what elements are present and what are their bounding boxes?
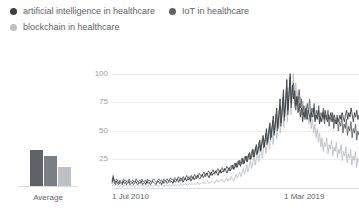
chart-legend: artificial intelligence in healthcare Io… [10,3,310,35]
legend-dot-icon-iot [169,8,176,15]
series-layer [112,68,359,188]
legend-dot-icon-ai [10,8,17,15]
average-bar [58,167,71,186]
legend-label-ai: artificial intelligence in healthcare [23,6,155,16]
legend-item-iot[interactable]: IoT in healthcare [169,6,249,16]
x-axis-labels: 1 Jul 2010 1 Mar 2019 [86,192,358,206]
y-tick-label: 50 [99,126,108,135]
timeseries-chart: 255075100 1 Jul 2010 1 Mar 2019 [86,60,358,210]
legend-row-2: blockchain in healthcare [10,19,310,35]
series-line [112,77,359,183]
legend-row-1: artificial intelligence in healthcare Io… [10,3,310,19]
legend-item-ai[interactable]: artificial intelligence in healthcare [10,6,155,16]
average-bar [44,156,57,186]
average-baseline [18,186,78,187]
legend-label-iot: IoT in healthcare [182,6,249,16]
series-line [112,74,359,185]
legend-item-blockchain[interactable]: blockchain in healthcare [10,22,120,32]
series-line [112,74,359,187]
average-bars [30,150,72,186]
y-tick-label: 75 [99,97,108,106]
legend-label-blockchain: blockchain in healthcare [23,22,120,32]
average-bar [30,150,43,186]
y-tick-label: 100 [95,69,108,78]
x-tick-end: 1 Mar 2019 [284,192,324,201]
y-axis-labels: 255075100 [86,68,112,188]
x-axis-line [112,188,359,189]
average-label: Average [18,193,78,202]
x-tick-start: 1 Jul 2010 [112,192,149,201]
y-tick-label: 25 [99,154,108,163]
average-panel: Average [0,140,78,204]
plot-area[interactable] [112,68,359,188]
legend-dot-icon-blockchain [10,24,17,31]
